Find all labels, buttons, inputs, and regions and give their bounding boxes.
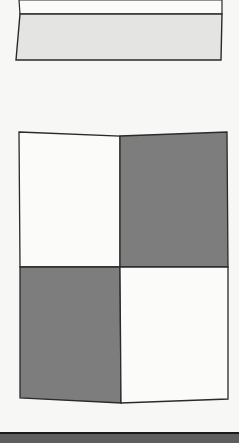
top-strip-figure	[16, 0, 222, 60]
bottom-scan-edge	[0, 432, 239, 443]
top-strip-upper-white	[19, 0, 222, 14]
diagram-canvas	[0, 0, 239, 443]
top-strip-lower-gray	[16, 14, 222, 60]
grid-cell-top-left	[19, 132, 120, 267]
grid-cell-bottom-right	[120, 267, 228, 403]
grid-cell-bottom-left	[20, 267, 121, 403]
grid-cell-top-right	[120, 132, 228, 267]
checker-grid-figure	[19, 132, 228, 403]
